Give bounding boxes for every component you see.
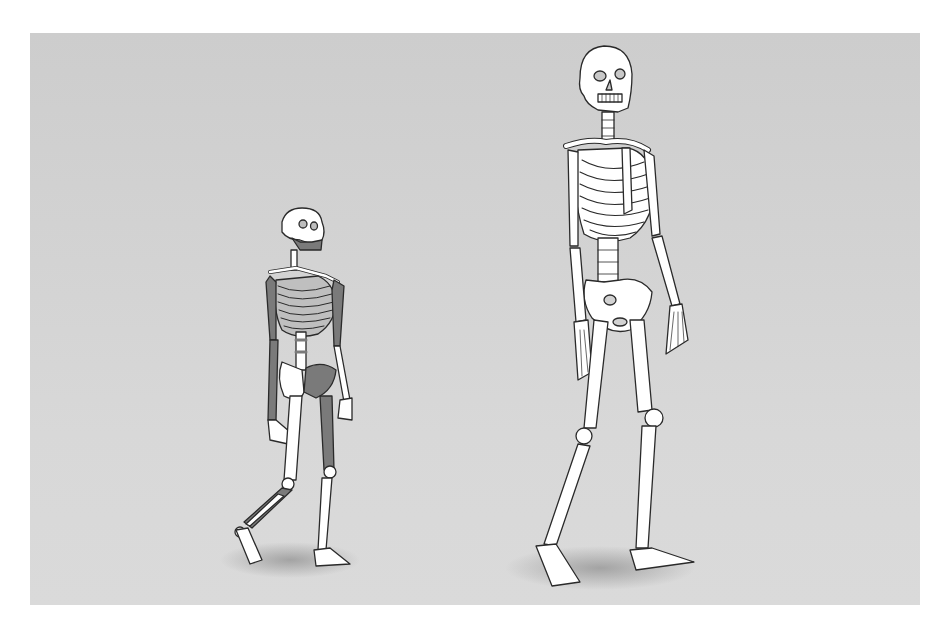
- front-femur: [320, 396, 334, 470]
- front-tibia: [318, 478, 332, 550]
- skeleton-illustration: [0, 0, 951, 627]
- small-skeleton: [235, 208, 352, 566]
- right-forearm: [334, 346, 350, 402]
- cervical-spine: [602, 112, 614, 142]
- front-tibia: [636, 426, 656, 548]
- ribcage: [275, 276, 336, 336]
- right-hand: [666, 304, 688, 354]
- lumbar-spine: [598, 238, 618, 282]
- tall-skeleton: [536, 46, 694, 586]
- pelvis-right: [304, 364, 336, 398]
- right-humerus: [332, 280, 344, 346]
- left-humerus: [266, 276, 276, 340]
- left-humerus: [568, 150, 578, 246]
- back-femur: [284, 396, 302, 480]
- left-forearm: [570, 248, 586, 322]
- right-forearm: [652, 236, 680, 306]
- left-forearm: [268, 340, 278, 420]
- right-hand: [338, 398, 352, 420]
- sternum: [622, 148, 632, 214]
- back-tibia: [544, 444, 590, 546]
- front-femur: [630, 320, 652, 412]
